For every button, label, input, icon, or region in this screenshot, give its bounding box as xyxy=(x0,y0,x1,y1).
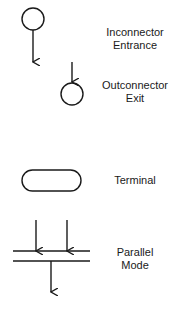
parallel-symbol xyxy=(13,220,90,292)
terminal-symbol xyxy=(22,170,81,191)
outconnector-label: Outconnector Exit xyxy=(96,79,174,105)
parallel-label-line2: Mode xyxy=(100,259,170,272)
inconnector-label-line2: Entrance xyxy=(96,39,174,52)
outconnector-symbol xyxy=(61,62,83,105)
terminal-rounded-rect-icon xyxy=(22,170,81,191)
outconnector-label-line1: Outconnector xyxy=(96,79,174,92)
terminal-label: Terminal xyxy=(100,174,170,187)
inconnector-circle-icon xyxy=(22,8,44,30)
inconnector-label: Inconnector Entrance xyxy=(96,26,174,52)
inconnector-label-line1: Inconnector xyxy=(96,26,174,39)
outconnector-label-line2: Exit xyxy=(96,92,174,105)
parallel-label-line1: Parallel xyxy=(100,246,170,259)
outconnector-circle-icon xyxy=(61,83,83,105)
terminal-label-line1: Terminal xyxy=(100,174,170,187)
parallel-label: Parallel Mode xyxy=(100,246,170,272)
inconnector-symbol xyxy=(22,8,44,62)
